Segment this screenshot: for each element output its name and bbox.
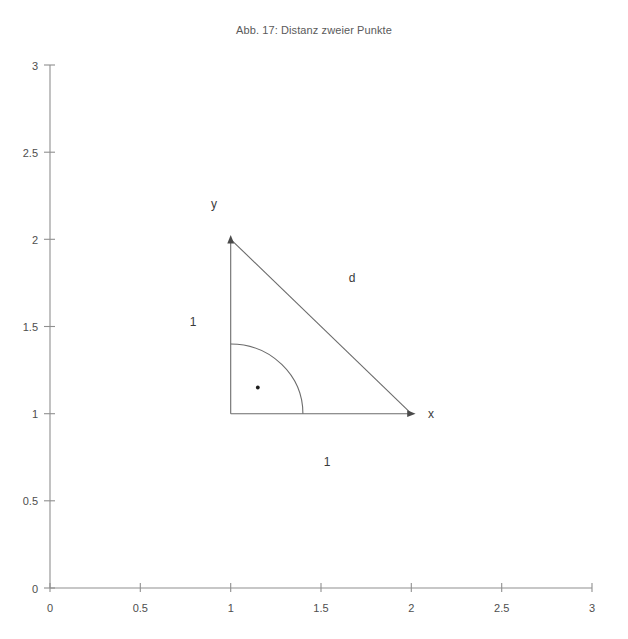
y-tick-label: 0.5 <box>23 495 38 507</box>
angle-arc <box>231 344 303 414</box>
x-tick-label: 2 <box>408 602 414 614</box>
label-y: y <box>211 197 217 211</box>
label-x: x <box>428 407 434 421</box>
label-side-horizontal: 1 <box>324 455 331 469</box>
y-tick-label: 3 <box>32 60 38 72</box>
label-side-vertical: 1 <box>190 315 197 329</box>
x-tick-label: 0.5 <box>133 602 148 614</box>
y-tick-label: 2 <box>32 234 38 246</box>
label-d: d <box>349 271 356 285</box>
x-tick-labels: 0 0.5 1 1.5 2 2.5 3 <box>47 602 595 614</box>
x-tick-label: 3 <box>589 602 595 614</box>
y-tick-label: 2.5 <box>23 147 38 159</box>
y-tick-label: 1.5 <box>23 321 38 333</box>
plot-canvas: 0 0.5 1 1.5 2 2.5 3 0 0.5 1 1.5 2 2.5 3 <box>0 0 628 639</box>
x-tick-label: 1.5 <box>313 602 328 614</box>
figure-container: Abb. 17: Distanz zweier Punkte 0 <box>0 0 628 639</box>
y-arrow-head-icon <box>227 235 234 244</box>
y-tick-labels: 0 0.5 1 1.5 2 2.5 3 <box>23 60 38 595</box>
interior-point-dot <box>256 386 260 390</box>
x-tick-label: 2.5 <box>494 602 509 614</box>
x-tick-label: 0 <box>47 602 53 614</box>
y-tick-label: 1 <box>32 408 38 420</box>
x-tick-label: 1 <box>228 602 234 614</box>
x-arrow-head-icon <box>407 410 415 417</box>
y-tick-label: 0 <box>32 583 38 595</box>
